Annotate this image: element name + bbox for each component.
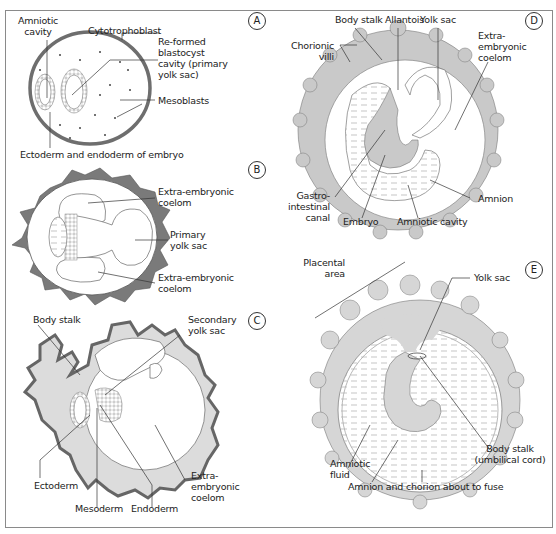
label-amniotic-cavity-a: Amniotic cavity [16, 15, 60, 37]
label-amnion-chorion: Amnion and chorion about to fuse [348, 481, 503, 492]
label-coelom-c: Extra- embryonic coelom [191, 470, 240, 503]
label-embryo-d: Embryo [343, 216, 378, 227]
label-ectoderm-c: Ectoderm [34, 480, 78, 491]
panel-c-badge: C [248, 312, 266, 330]
label-ectoderm-endoderm: Ectoderm and endoderm of embryo [20, 149, 184, 160]
label-primary-yolk-sac: Primary yolk sac [170, 229, 207, 251]
label-amniotic-cavity-d: Amniotic cavity [397, 216, 468, 227]
panel-e-badge: E [525, 261, 543, 279]
label-mesoblasts: Mesoblasts [158, 95, 209, 106]
label-placental-area: Placental area [300, 257, 345, 279]
label-gastro-intestinal: Gastro- intestinal canal [280, 190, 330, 223]
label-body-stalk-d: Body stalk [335, 14, 383, 25]
label-coelom-d: Extra- embryonic coelom [478, 30, 527, 63]
panel-a-badge: A [248, 12, 266, 30]
label-secondary-yolk-sac: Secondary yolk sac [188, 314, 237, 336]
label-endoderm-c: Endoderm [131, 503, 178, 514]
label-cytotrophoblast: Cytotrophoblast [88, 25, 161, 36]
label-yolk-sac-d: Yolk sac [420, 14, 456, 25]
label-chorionic-villi: Chorionic villi [284, 40, 334, 62]
panel-d-badge: D [525, 12, 543, 30]
label-allantois: Allantois [385, 14, 424, 25]
panel-b-drawing [12, 168, 170, 305]
label-coelom-bottom-b: Extra-embryonic coelom [158, 272, 234, 294]
label-amniotic-fluid: Amniotic fluid [330, 458, 370, 480]
panel-b-badge: B [248, 161, 266, 179]
panel-a-drawing [30, 32, 160, 148]
label-amnion-d: Amnion [478, 193, 513, 204]
label-body-stalk-c: Body stalk [33, 314, 81, 325]
label-yolk-sac-e: Yolk sac [474, 272, 510, 283]
label-mesoderm-c: Mesoderm [75, 503, 123, 514]
label-coelom-top-b: Extra-embryonic coelom [158, 186, 234, 208]
label-body-stalk-e: Body stalk (umbilical cord) [465, 443, 555, 465]
label-blastocyst-cavity: Re-formed blastocyst cavity (primary yol… [158, 36, 228, 80]
